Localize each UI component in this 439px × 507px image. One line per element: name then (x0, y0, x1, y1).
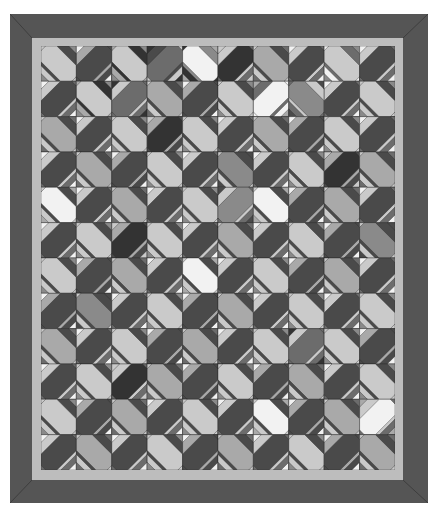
quilt-field (41, 46, 395, 470)
quilt-blocks (41, 46, 395, 470)
